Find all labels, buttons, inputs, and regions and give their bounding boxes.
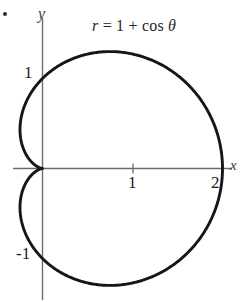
y-tick-label-negative-1: -1 (16, 245, 30, 262)
y-tick-label-1: 1 (24, 64, 33, 81)
equation-theta: θ (168, 17, 176, 34)
y-axis-label: y (38, 6, 45, 22)
x-tick-label-1: 1 (128, 174, 137, 191)
equation-cos: cos (142, 17, 164, 34)
equation-plus: + (124, 17, 142, 34)
axes-group (13, 18, 232, 300)
equation-annotation: r = 1 + cos θ (92, 18, 176, 34)
equation-equals: = (98, 17, 116, 34)
x-tick-label-2: 2 (211, 174, 220, 191)
cardioid-figure: r = 1 + cos θ y x 1 -1 1 2 (0, 0, 240, 302)
x-axis-label: x (230, 158, 237, 173)
polar-plot-canvas (0, 0, 240, 302)
